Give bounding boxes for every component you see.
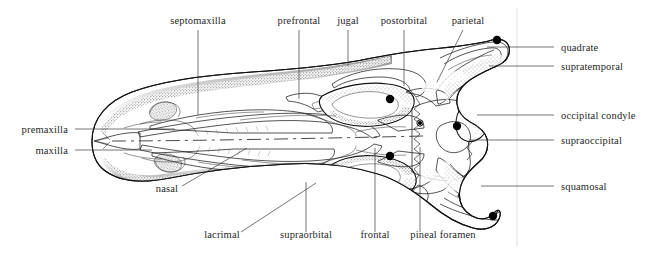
- frontal-dot: [386, 152, 394, 160]
- parietal-dot: [493, 36, 501, 44]
- occipital-condyle-dot: [453, 122, 461, 130]
- label-supraoccipital: supraoccipital: [561, 135, 622, 146]
- jugal-bone-lower: [334, 185, 428, 213]
- label-squamosal: squamosal: [561, 181, 607, 192]
- label-quadrate: quadrate: [561, 42, 599, 53]
- skull-illustration: [92, 39, 509, 229]
- label-parietal: parietal: [452, 15, 485, 26]
- label-lacrimal: lacrimal: [204, 229, 240, 240]
- label-nasal: nasal: [156, 183, 178, 194]
- postorbital-dot: [386, 95, 394, 103]
- leader-line-lacrimal: [241, 183, 316, 232]
- squamosal-hook-inner: [464, 196, 488, 210]
- label-frontal: frontal: [360, 229, 389, 240]
- orbit-lower: [322, 156, 417, 199]
- skull-figure: septomaxillaprefrontaljugalpostorbitalpa…: [0, 0, 655, 254]
- lacrimal-bone-lower: [314, 172, 342, 182]
- label-maxilla: maxilla: [35, 145, 68, 156]
- label-pineal_foramen: pineal foramen: [410, 229, 476, 240]
- label-supraorbital: supraorbital: [280, 229, 332, 240]
- pineal-foramen-dot: [418, 121, 422, 125]
- label-septomaxilla: septomaxilla: [170, 15, 226, 26]
- label-prefrontal: prefrontal: [278, 15, 321, 26]
- label-supratemporal: supratemporal: [561, 61, 623, 72]
- label-premaxilla: premaxilla: [22, 124, 69, 135]
- label-jugal: jugal: [336, 15, 359, 26]
- label-postorbital: postorbital: [381, 15, 428, 26]
- label-occipital_condyle: occipital condyle: [561, 110, 636, 121]
- squamosal-dot: [489, 212, 497, 220]
